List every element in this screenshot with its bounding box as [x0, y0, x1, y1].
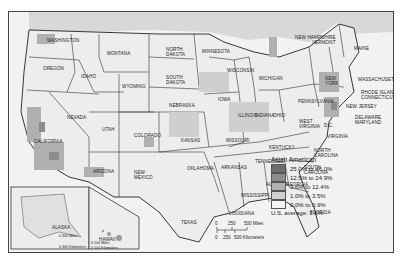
legend-item: 1.0% to 3.5%	[271, 191, 383, 200]
state-label-pennsylvania: PENNSYLVANIA	[298, 99, 334, 104]
state-label-arkansas: ARKANSAS	[221, 165, 247, 170]
state-label-virginia: VIRGINIA	[327, 134, 348, 139]
state-label-west-virginia: WEST VIRGINIA	[299, 119, 320, 129]
state-label-dc: D.C.	[324, 123, 334, 128]
scale-km-500: 500 Kilometers	[234, 235, 264, 240]
state-label-mississippi: MISSISSIPPI	[241, 193, 269, 198]
state-label-kansas: KANSAS	[181, 138, 200, 143]
state-label-texas: TEXAS	[181, 220, 197, 225]
us-map: WASHINGTON OREGON IDAHO MONTANA NORTH DA…	[8, 11, 394, 253]
state-label-oregon: OREGON	[43, 66, 64, 71]
hawaii-scale-miles: 0 100 Miles	[91, 241, 109, 245]
legend-item: 0.0% to 0.9%	[271, 200, 383, 209]
state-label-minnesota: MINNESOTA	[202, 49, 230, 54]
state-label-new-jersey: NEW JERSEY	[346, 104, 377, 109]
map-legend: Asian American 25.0% to 46.0% 12.5% to 2…	[271, 156, 383, 216]
legend-swatch	[271, 200, 286, 209]
state-label-massachusetts: MASSACHUSETTS	[358, 77, 394, 82]
state-label-wyoming: WYOMING	[122, 84, 146, 89]
state-label-wisconsin: WISCONSIN	[227, 68, 254, 73]
legend-label: 1.0% to 3.5%	[290, 193, 326, 199]
state-label-south-dakota: SOUTH DAKOTA	[166, 75, 185, 85]
state-label-california: CALIFORNIA	[34, 139, 63, 144]
state-label-montana: MONTANA	[107, 51, 130, 56]
state-label-washington: WASHINGTON	[47, 38, 79, 43]
legend-item: 25.0% to 46.0%	[271, 164, 383, 173]
legend-swatch	[271, 164, 286, 173]
scale-miles-500: 500 Miles	[244, 221, 263, 226]
scale-km-0: 0	[215, 235, 218, 240]
alaska-scale-km: 0 300 Kilometers	[59, 245, 86, 249]
legend-label: 12.5% to 24.9%	[290, 175, 332, 181]
legend-item: 12.5% to 24.9%	[271, 173, 383, 182]
state-label-nevada: NEVADA	[67, 115, 86, 120]
state-label-nh-vt: NEW HAMPSHIRE VERMONT	[295, 35, 336, 45]
scale-km-250: 250	[223, 235, 231, 240]
state-label-alaska: ALASKA	[52, 225, 70, 230]
legend-item: 3.6% to 12.4%	[271, 182, 383, 191]
legend-label: 25.0% to 46.0%	[290, 166, 332, 172]
state-label-arizona: ARIZONA	[93, 169, 114, 174]
state-label-oklahoma: OKLAHOMA	[187, 166, 214, 171]
scale-miles-0: 0	[215, 221, 218, 226]
state-label-michigan: MICHIGAN	[259, 76, 283, 81]
state-label-new-mexico: NEW MEXICO	[134, 170, 153, 180]
state-label-de-md: DELAWARE MARYLAND	[355, 115, 381, 125]
state-label-kentucky: KENTUCKY	[269, 145, 295, 150]
scale-miles-250: 250	[228, 221, 236, 226]
hawaii-scale-km: 0 100 Kilometers	[91, 246, 118, 250]
state-label-ohio: OHIO	[273, 113, 285, 118]
legend-swatch	[271, 173, 286, 182]
state-label-nebraska: NEBRASKA	[169, 103, 195, 108]
state-label-louisiana: LOUISIANA	[229, 211, 254, 216]
legend-label: 0.0% to 0.9%	[290, 202, 326, 208]
legend-label: 3.6% to 12.4%	[290, 184, 329, 190]
legend-us-average: U.S. average: 3.6%	[271, 210, 383, 216]
state-label-iowa: IOWA	[218, 97, 230, 102]
alaska-scale-miles: 0 300 Miles	[59, 234, 77, 238]
state-label-missouri: MISSOURI	[226, 138, 250, 143]
state-label-colorado: COLORADO	[134, 133, 161, 138]
legend-swatch	[271, 191, 286, 200]
legend-swatch	[271, 182, 286, 191]
state-label-north-dakota: NORTH DAKOTA	[166, 47, 185, 57]
legend-title: Asian American	[271, 156, 383, 163]
state-label-idaho: IDAHO	[81, 74, 96, 79]
state-label-indiana: INDIANA	[255, 113, 274, 118]
state-label-ri-ct: RHODE ISLAND CONNECTICUT	[361, 90, 394, 100]
state-label-utah: UTAH	[102, 127, 115, 132]
state-label-maine: MAINE	[354, 46, 369, 51]
state-label-new-york: NEW YORK	[325, 76, 338, 86]
map-geometry	[9, 12, 393, 252]
